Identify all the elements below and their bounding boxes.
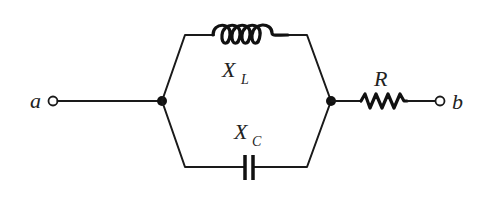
resistor-label: R <box>373 66 388 91</box>
wire-top-right <box>288 35 331 101</box>
capacitor-label-symbol: X <box>233 119 249 144</box>
resistor: R <box>361 66 407 108</box>
resistor-zigzag-icon <box>361 94 407 108</box>
inductor-label-symbol: X <box>221 57 237 82</box>
terminal-a-circle <box>49 97 58 106</box>
capacitor: X C <box>233 119 262 180</box>
capacitor-label-subscript: C <box>252 134 262 149</box>
inductor: X L <box>213 25 288 87</box>
inductor-label-subscript: L <box>240 72 249 87</box>
terminal-b: b <box>436 89 464 114</box>
terminal-a-label: a <box>30 88 41 113</box>
wire-bottom-left <box>162 101 245 167</box>
terminal-b-circle <box>436 97 445 106</box>
terminal-a: a <box>30 88 58 113</box>
wire-bottom-right <box>254 101 331 167</box>
inductor-coil-icon <box>213 25 288 43</box>
terminal-b-label: b <box>452 89 463 114</box>
circuit-diagram: a X L X C R b <box>0 0 491 198</box>
wire-top-left <box>162 35 214 101</box>
